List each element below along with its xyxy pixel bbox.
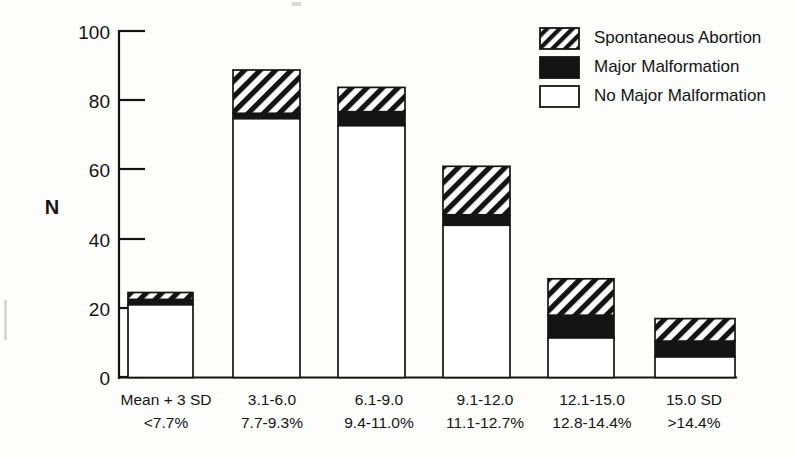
bar-0-no-major-malformation[interactable] [128,305,193,378]
legend-item-spontaneous-abortion[interactable]: Spontaneous Abortion [540,28,761,49]
bar-2-no-major-malformation[interactable] [338,126,405,378]
bar-1-spontaneous-abortion[interactable] [233,70,300,113]
bar-3-spontaneous-abortion[interactable] [443,166,510,215]
bar-3-major-malformation[interactable] [443,215,510,225]
legend-swatch-black-icon [540,57,579,78]
x-label-1-top: 3.1-6.0 [248,391,297,408]
legend-label-spontaneous-abortion: Spontaneous Abortion [594,28,761,47]
y-tick-label-40: 40 [89,230,110,251]
bar-group-5[interactable] [655,319,735,378]
y-tick-label-100: 100 [78,22,110,43]
scan-artifact [292,2,301,6]
stacked-bar-chart: 100 80 60 40 20 0 N [0,0,795,458]
y-tick-label-60: 60 [89,160,110,181]
y-tick-label-0: 0 [99,368,110,389]
legend-swatch-hatch-icon [540,28,579,49]
x-label-1-bottom: 7.7-9.3% [241,414,303,431]
bar-2-major-malformation[interactable] [338,112,405,126]
x-label-3-top: 9.1-12.0 [457,391,514,408]
bar-5-spontaneous-abortion[interactable] [655,319,735,342]
y-axis-title: N [45,196,59,218]
bar-group-2[interactable] [338,87,405,377]
x-label-5-top: 15.0 SD [666,391,722,408]
chart-container: 100 80 60 40 20 0 N [0,0,795,458]
bar-1-no-major-malformation[interactable] [233,119,300,378]
legend-swatch-white-icon [540,86,579,107]
bar-group-0[interactable] [128,293,193,378]
x-label-2-top: 6.1-9.0 [355,391,404,408]
bar-4-spontaneous-abortion[interactable] [548,279,614,315]
x-label-0-top: Mean + 3 SD [121,391,212,408]
x-label-3-bottom: 11.1-12.7% [446,414,524,431]
bar-5-major-malformation[interactable] [655,341,735,357]
x-label-5-bottom: >14.4% [667,414,720,431]
scan-artifact-edge [4,300,7,340]
bar-4-major-malformation[interactable] [548,315,614,338]
bar-group-4[interactable] [548,279,614,378]
legend-item-no-major-malformation[interactable]: No Major Malformation [540,86,766,107]
x-label-2-bottom: 9.4-11.0% [344,414,414,431]
chart-legend: Spontaneous Abortion Major Malformation … [540,28,766,107]
x-label-4-bottom: 12.8-14.4% [552,414,631,431]
bar-2-spontaneous-abortion[interactable] [338,87,405,111]
bar-group-1[interactable] [233,70,300,378]
legend-label-major-malformation: Major Malformation [594,57,740,76]
bar-3-no-major-malformation[interactable] [443,225,510,377]
bar-4-no-major-malformation[interactable] [548,338,614,378]
legend-label-no-major-malformation: No Major Malformation [594,86,766,105]
x-label-0-bottom: <7.7% [144,414,189,431]
bar-0-spontaneous-abortion[interactable] [128,293,193,300]
bar-5-no-major-malformation[interactable] [655,357,735,378]
y-tick-label-80: 80 [89,91,110,112]
legend-item-major-malformation[interactable]: Major Malformation [540,57,740,78]
x-label-4-top: 12.1-15.0 [559,391,625,408]
y-tick-label-20: 20 [89,299,110,320]
bar-group-3[interactable] [443,166,510,377]
